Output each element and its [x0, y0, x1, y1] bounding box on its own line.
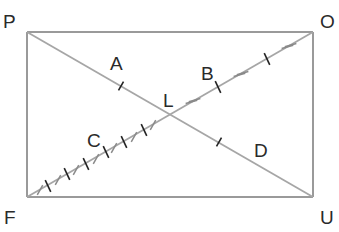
- intersection-label-L: L: [163, 90, 174, 111]
- vertex-label-F: F: [4, 207, 16, 228]
- vertex-label-U: U: [320, 207, 334, 228]
- vertex-label-O: O: [320, 11, 335, 32]
- vertex-label-P: P: [3, 11, 16, 32]
- segment-label-B: B: [201, 63, 214, 84]
- rectangle-diagram: P O F U L A B C D: [0, 0, 339, 232]
- segment-label-A: A: [110, 53, 123, 74]
- tick-marks: [37, 44, 296, 195]
- segment-label-D: D: [254, 140, 268, 161]
- segment-label-C: C: [87, 130, 101, 151]
